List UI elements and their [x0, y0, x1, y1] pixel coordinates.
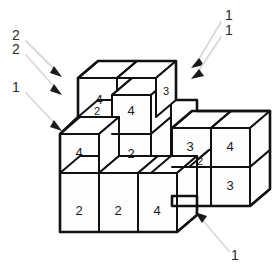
cube-face-number: 4 [153, 203, 160, 218]
cube-face-number: 3 [186, 139, 193, 154]
callout-label: 1 [231, 247, 239, 263]
callout-arrowhead-icon [50, 84, 62, 95]
cube-face-number: 2 [114, 203, 121, 218]
cube-stack-illustration: 4 4 3 2 2 4 3 4 2 3 2 2 4 2 [0, 0, 275, 278]
callout-label: 1 [225, 7, 233, 23]
callout-leader-line [200, 217, 229, 251]
callout-right-second: 1 [191, 22, 233, 79]
callout-label: 1 [12, 79, 20, 95]
cube-face-number: 3 [163, 85, 169, 97]
cube-face-number: 3 [226, 178, 233, 193]
cube-face-number: 2 [94, 105, 100, 117]
callout-label: 2 [12, 41, 20, 57]
cube-face-number: 4 [226, 139, 233, 154]
callout-bottom-right: 1 [195, 212, 239, 263]
cube-face-number: 4 [127, 103, 134, 118]
cube-face-number: 4 [75, 145, 82, 160]
callout-arrowhead-icon [191, 69, 204, 79]
callout-arrowhead-icon [195, 212, 207, 223]
figure-canvas: 4 4 3 2 2 4 3 4 2 3 2 2 4 2 [0, 0, 275, 278]
cube-face-number: 2 [197, 155, 203, 167]
callout-label: 1 [225, 22, 233, 38]
cube-face-number: 2 [75, 203, 82, 218]
cube-face-number: 2 [127, 146, 134, 161]
